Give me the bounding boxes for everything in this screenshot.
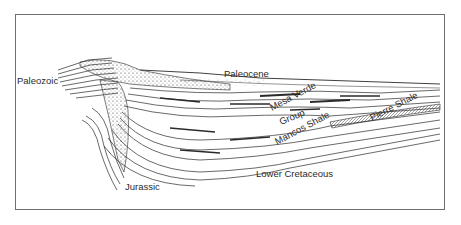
label-jurassic: Jurassic (125, 181, 160, 192)
label-paleozoic: Paleozoic (17, 75, 58, 86)
cross-section-diagram: Paleozoic Paleocene Mesa Verde Group Pie… (0, 0, 461, 225)
label-paleocene: Paleocene (224, 68, 269, 79)
thrust-sandstone-column (100, 80, 129, 172)
label-lower-cretaceous: Lower Cretaceous (256, 168, 333, 179)
